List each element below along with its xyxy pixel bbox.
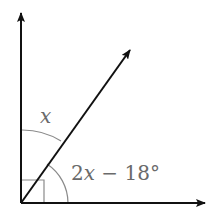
lower-angle-label: 2x − 18° <box>71 163 160 183</box>
lower-angle-coefficient: 2 <box>71 161 84 185</box>
lower-angle-constant: − 18° <box>95 161 160 185</box>
lower-angle-arc <box>47 164 68 203</box>
angle-diagram: x 2x − 18° <box>0 0 224 223</box>
upper-angle-arc <box>21 130 61 141</box>
lower-angle-variable: x <box>84 161 95 185</box>
upper-angle-label: x <box>40 106 51 126</box>
diagram-canvas <box>0 0 224 223</box>
